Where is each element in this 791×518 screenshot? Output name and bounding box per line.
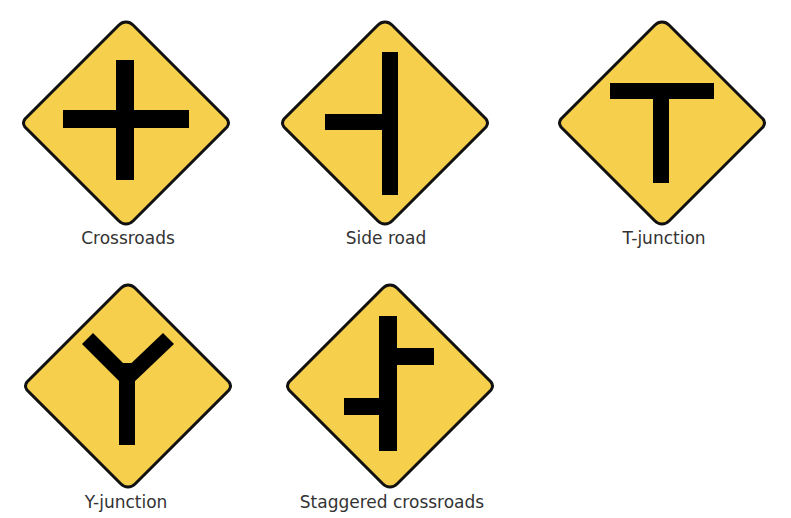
sign-y-junction — [22, 283, 234, 489]
sign-crossroads — [20, 20, 232, 226]
sign-caption: Staggered crossroads — [300, 492, 484, 512]
sign-caption: Y-junction — [85, 492, 168, 512]
crossroads-icon — [20, 20, 232, 226]
staggered-crossroads-icon — [284, 283, 496, 489]
y-junction-icon — [22, 283, 234, 489]
sign-staggered-crossroads — [284, 283, 496, 489]
sign-caption: Crossroads — [81, 228, 175, 248]
sign-caption: Side road — [346, 228, 426, 248]
side-road-icon — [279, 20, 491, 226]
sign-side-road — [279, 20, 491, 226]
sign-t-junction — [556, 20, 768, 226]
t-junction-icon — [556, 20, 768, 226]
sign-caption: T-junction — [622, 228, 705, 248]
